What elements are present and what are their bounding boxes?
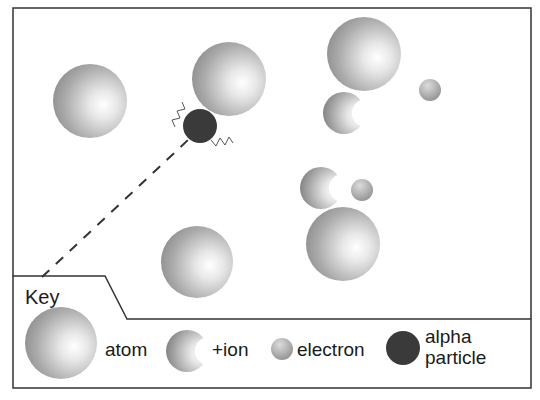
key-title: Key — [25, 287, 59, 307]
atom-icon — [192, 42, 266, 116]
diagram-frame — [13, 8, 531, 319]
key-label-particle: particle — [425, 348, 486, 367]
key-label-atom: atom — [105, 340, 147, 359]
key-ion-icon — [166, 330, 208, 372]
electron-icon — [351, 179, 373, 201]
key-alpha-icon — [386, 331, 420, 365]
atom-icon — [53, 64, 127, 138]
ion-icon — [323, 92, 365, 134]
key-atom-icon — [25, 307, 97, 379]
atom-icon — [161, 226, 233, 298]
key-electron-icon — [271, 338, 293, 360]
alpha-particle-icon — [183, 109, 217, 143]
electron-icon — [419, 79, 441, 101]
ion-icon — [300, 167, 342, 209]
energy-zigzag-icon — [211, 137, 233, 146]
atom-icon — [306, 207, 380, 281]
energy-zigzag-icon — [172, 102, 185, 127]
key-label-electron: electron — [297, 340, 365, 359]
key-label-alpha: alpha — [425, 327, 472, 346]
key-label-ion: +ion — [212, 340, 248, 359]
atom-icon — [327, 17, 401, 91]
